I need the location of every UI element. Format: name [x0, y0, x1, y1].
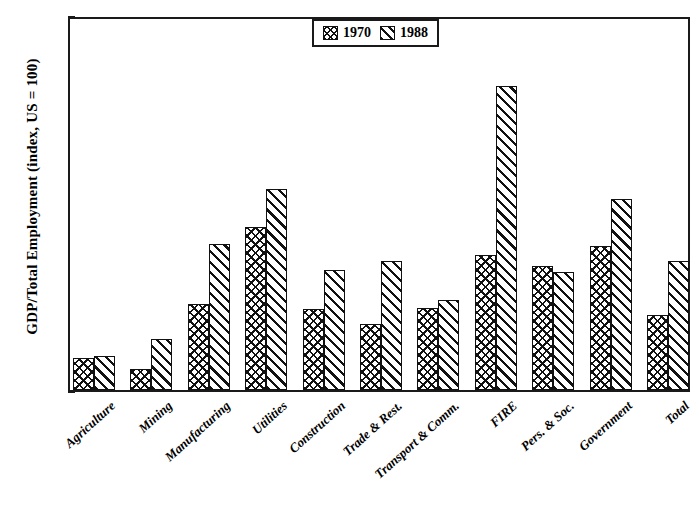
legend-label: 1970	[343, 25, 371, 41]
bar-1970-trade-rest	[360, 324, 381, 390]
bar-1988-government	[611, 199, 632, 390]
bar-1988-mining	[151, 339, 172, 390]
x-axis-label: FIRE	[487, 398, 521, 431]
legend-swatch-icon	[323, 26, 338, 40]
bar-1970-transport-comm	[417, 308, 438, 391]
bar-1988-agriculture	[94, 356, 115, 390]
bar-1988-trade-rest	[381, 261, 402, 390]
bar-1988-transport-comm	[438, 300, 459, 390]
chart-legend: 19701988	[312, 19, 439, 47]
legend-swatch-icon	[380, 26, 395, 40]
x-axis-label: Pers. & Soc.	[518, 398, 578, 454]
bar-1988-construction	[324, 270, 345, 390]
x-axis-label: Construction	[286, 398, 349, 457]
legend-entry-1988: 1988	[380, 25, 428, 41]
bar-1970-total	[647, 315, 668, 390]
bar-1970-construction	[303, 309, 324, 390]
bar-1970-mining	[130, 369, 151, 390]
bar-1970-utilities	[245, 227, 266, 390]
y-axis-title: GDP/Total Employment (index, US = 100)	[24, 2, 41, 392]
bar-1988-fire	[496, 86, 517, 390]
x-axis-label: Mining	[136, 398, 176, 436]
bar-1988-utilities	[266, 189, 287, 390]
legend-entry-1970: 1970	[323, 25, 371, 41]
bar-1970-government	[590, 246, 611, 390]
plot-area	[68, 17, 690, 392]
x-axis-label: Agriculture	[62, 398, 119, 451]
bar-1988-pers-soc	[553, 272, 574, 390]
x-axis-label: Utilities	[249, 398, 291, 438]
bar-1970-manufacturing	[188, 304, 209, 390]
x-axis-label: Government	[575, 398, 635, 454]
bars-container	[70, 19, 688, 390]
bar-1988-total	[668, 261, 689, 390]
bar-1988-manufacturing	[209, 244, 230, 390]
bar-1970-agriculture	[73, 358, 94, 390]
bar-1970-fire	[475, 255, 496, 390]
bar-1970-pers-soc	[532, 266, 553, 390]
bar-chart: GDP/Total Employment (index, US = 100) 0…	[0, 0, 699, 507]
x-axis-label: Total	[662, 398, 693, 428]
legend-label: 1988	[400, 25, 428, 41]
